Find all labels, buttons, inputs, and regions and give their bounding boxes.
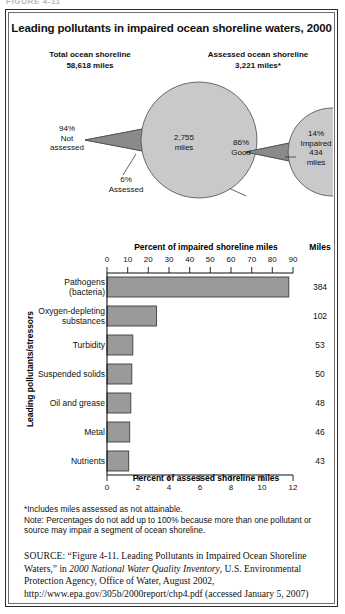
figure-frame: Leading pollutants in impaired ocean sho… xyxy=(5,9,338,607)
pie-chart-panel: Total ocean shoreline 58,618 miles Asses… xyxy=(10,44,333,224)
category-label-nutrients: Nutrients xyxy=(71,456,105,466)
bar-turbidity xyxy=(107,335,133,355)
note-line-1: Note: Percentages do not add up to 100% … xyxy=(24,515,323,526)
category-label-pathogens: Pathogens (bacteria) xyxy=(64,277,105,297)
category-label-metal: Metal xyxy=(84,427,105,437)
top-tick-80: 80 xyxy=(262,255,282,264)
bottom-tick-4: 4 xyxy=(159,483,179,492)
bottom-tick-8: 8 xyxy=(221,483,241,492)
top-tick-90: 90 xyxy=(283,255,303,264)
figure-inner: Leading pollutants in impaired ocean sho… xyxy=(10,14,333,602)
right-pie-label-impaired: 14% Impaired 434 miles xyxy=(294,129,333,167)
assessed-leader-line xyxy=(123,154,136,175)
top-tick-40: 40 xyxy=(180,255,200,264)
bottom-tick-2: 2 xyxy=(128,483,148,492)
source-label: SOURCE: xyxy=(24,550,65,561)
category-label-oxygen-depleting: Oxygen-depleting substances xyxy=(38,306,105,326)
miles-value-oil-and-grease: 48 xyxy=(303,398,333,408)
bottom-tick-12: 12 xyxy=(283,483,303,492)
top-tick-0: 0 xyxy=(97,255,117,264)
category-label-oil-and-grease: Oil and grease xyxy=(50,398,105,408)
top-tick-70: 70 xyxy=(242,255,262,264)
top-tick-30: 30 xyxy=(159,255,179,264)
pie-connector-label: 2,755 miles xyxy=(162,133,206,152)
top-tick-10: 10 xyxy=(118,255,138,264)
figure-notes: *Includes miles assessed as not attainab… xyxy=(24,504,323,536)
bottom-tick-10: 10 xyxy=(252,483,272,492)
bar-oil-and-grease xyxy=(107,393,131,413)
bar-suspended-solids xyxy=(107,364,132,384)
bar-pathogens xyxy=(107,277,289,297)
bottom-tick-6: 6 xyxy=(190,483,210,492)
bar-nutrients xyxy=(107,451,129,471)
page-title: Leading pollutants in impaired ocean sho… xyxy=(10,22,333,34)
bottom-axis-ticks xyxy=(107,475,293,481)
miles-value-metal: 46 xyxy=(303,427,333,437)
miles-value-turbidity: 53 xyxy=(303,340,333,350)
figure-source: SOURCE: “Figure 4-11. Leading Pollutants… xyxy=(24,550,325,600)
miles-value-pathogens: 384 xyxy=(303,282,333,292)
top-tick-60: 60 xyxy=(221,255,241,264)
category-label-suspended-solids: Suspended solids xyxy=(38,369,105,379)
bar-series xyxy=(107,277,289,471)
miles-value-oxygen-depleting: 102 xyxy=(303,311,333,321)
bar-metal xyxy=(107,422,130,442)
miles-value-nutrients: 43 xyxy=(303,456,333,466)
top-tick-50: 50 xyxy=(200,255,220,264)
note-line-2: source may impair a segment of ocean sho… xyxy=(24,525,323,536)
left-pie-label-assessed: 6% Assessed xyxy=(94,175,158,194)
page-header: FIGURE 4-11 xyxy=(6,0,61,6)
bottom-tick-0: 0 xyxy=(97,483,117,492)
left-pie-label-not-assessed: 94% Not assessed xyxy=(28,124,106,153)
right-pie-label-good: 86% Good xyxy=(215,138,267,157)
top-tick-20: 20 xyxy=(138,255,158,264)
bar-oxygen-depleting xyxy=(107,306,157,326)
top-axis-ticks xyxy=(107,267,293,273)
source-italic-title: 2000 National Water Quality Inventory xyxy=(69,563,219,574)
miles-value-suspended-solids: 50 xyxy=(303,369,333,379)
note-asterisk: *Includes miles assessed as not attainab… xyxy=(24,504,323,515)
bar-chart-panel: Percent of impaired shoreline miles Mile… xyxy=(10,222,333,494)
category-label-turbidity: Turbidity xyxy=(73,340,105,350)
